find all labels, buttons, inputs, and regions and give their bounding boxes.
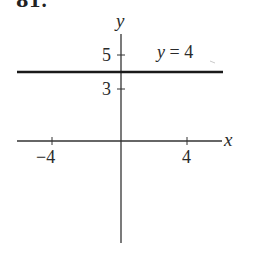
tick-label-neg4: −4 (36, 147, 55, 167)
y-axis-label: y (114, 10, 125, 31)
tick-label-4: 4 (182, 147, 191, 167)
x-axis-label: x (223, 129, 233, 150)
line-annotation-var: y (155, 42, 165, 62)
line-annotation-rest: = 4 (165, 42, 193, 62)
stray-mark (210, 61, 215, 63)
tick-label-3: 3 (102, 79, 111, 99)
graph: y x 5 3 −4 4 y = 4 (0, 0, 254, 253)
tick-label-5: 5 (102, 45, 111, 65)
line-annotation: y = 4 (155, 42, 193, 62)
